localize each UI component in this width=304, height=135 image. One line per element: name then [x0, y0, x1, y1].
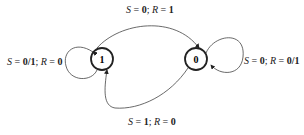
transition-label-1-1: S = 0/1; R = 0	[7, 56, 62, 67]
state-diagram: 1 0	[0, 0, 304, 135]
self-loop-0	[206, 38, 243, 73]
transition-label-0-1: S = 1; R = 0	[128, 116, 176, 127]
transition-label-1-0: S = 0; R = 1	[126, 4, 174, 15]
state-1-label: 1	[100, 54, 105, 65]
arrow-1-to-0	[97, 26, 199, 48]
state-0-label: 0	[194, 54, 199, 65]
arrow-0-to-1	[105, 68, 188, 108]
transition-label-0-0: S = 0; R = 0/1	[244, 55, 299, 66]
